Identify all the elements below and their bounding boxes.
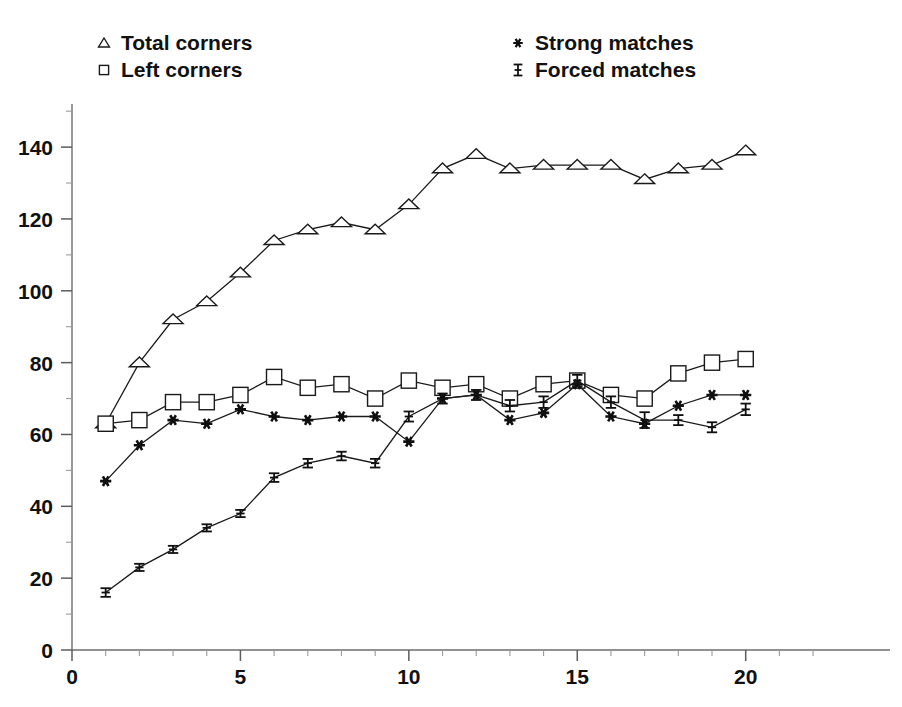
data-point — [201, 419, 212, 429]
marker-open-square — [132, 413, 147, 428]
marker-open-square — [704, 355, 719, 370]
y-tick-label: 20 — [30, 567, 53, 590]
data-series-group — [96, 145, 756, 597]
legend-marker-open-square — [99, 65, 108, 74]
marker-open-square — [300, 380, 315, 395]
data-point — [702, 159, 722, 169]
data-point — [671, 366, 686, 381]
data-point — [536, 377, 551, 392]
marker-open-triangle — [433, 163, 453, 173]
x-tick-label: 5 — [235, 665, 247, 688]
marker-solid-star-core — [542, 411, 546, 415]
data-point — [740, 390, 751, 400]
marker-open-triangle — [635, 174, 655, 184]
data-point — [331, 217, 351, 227]
legend-marker-error-bar — [514, 65, 523, 76]
data-point — [233, 387, 248, 402]
data-point — [267, 369, 282, 384]
marker-solid-star-core — [339, 415, 343, 419]
data-point — [264, 235, 284, 245]
marker-open-square — [199, 395, 214, 410]
marker-open-square — [671, 366, 686, 381]
legend-entry-strong-matches: Strong matches — [513, 31, 693, 54]
marker-solid-star-core — [609, 415, 613, 419]
data-point — [129, 357, 149, 367]
series-strong-matches — [100, 379, 751, 486]
data-point-error-bar — [235, 510, 245, 517]
marker-open-triangle — [736, 145, 756, 155]
legend-marker-open-triangle — [99, 38, 110, 47]
y-tick-label: 60 — [30, 423, 53, 446]
chart-container: 020406080100120140 05101520 Total corner… — [0, 0, 902, 707]
marker-open-square — [165, 395, 180, 410]
x-tick-label: 15 — [566, 665, 590, 688]
marker-solid-star-core — [373, 415, 377, 419]
marker-open-triangle — [264, 235, 284, 245]
marker-solid-star-core — [238, 407, 242, 411]
marker-open-square — [334, 377, 349, 392]
x-tick-label: 0 — [66, 665, 78, 688]
data-point — [302, 415, 313, 425]
marker-open-triangle — [331, 217, 351, 227]
data-point — [300, 380, 315, 395]
data-point — [235, 404, 246, 414]
data-point — [165, 395, 180, 410]
data-point — [298, 224, 318, 234]
legend-label: Total corners — [121, 31, 252, 54]
data-point-error-bar — [639, 412, 649, 428]
data-point — [706, 390, 717, 400]
y-axis-tick-labels: 020406080100120140 — [18, 136, 53, 662]
y-tick-label: 120 — [18, 208, 53, 231]
marker-open-triangle — [567, 159, 587, 169]
marker-open-triangle — [230, 267, 250, 277]
marker-solid-star-core — [407, 440, 411, 444]
marker-solid-star-core — [272, 415, 276, 419]
marker-open-square — [401, 373, 416, 388]
data-point — [334, 377, 349, 392]
series-total-corners — [96, 145, 756, 428]
legend-marker-solid-star — [513, 39, 523, 47]
data-point — [738, 351, 753, 366]
marker-open-square — [368, 391, 383, 406]
data-point — [704, 355, 719, 370]
y-tick-label: 100 — [18, 280, 53, 303]
marker-solid-star-core — [205, 422, 209, 426]
data-point-error-bar — [336, 452, 346, 461]
data-point — [567, 159, 587, 169]
marker-open-square — [233, 387, 248, 402]
marker-open-square — [738, 351, 753, 366]
data-point-error-bar — [370, 459, 380, 468]
data-point — [601, 159, 621, 169]
y-tick-label: 40 — [30, 495, 53, 518]
data-point — [433, 163, 453, 173]
data-point — [466, 149, 486, 159]
y-tick-label: 0 — [41, 639, 53, 662]
x-tick-label: 10 — [397, 665, 420, 688]
legend-entry-total-corners: Total corners — [99, 31, 253, 54]
marker-solid-star-core — [508, 418, 512, 422]
data-point-error-bar — [740, 404, 750, 415]
series-line — [106, 151, 746, 424]
legend-entry-forced-matches: Forced matches — [514, 58, 696, 81]
marker-solid-star-core — [171, 418, 175, 422]
data-point — [336, 412, 347, 422]
x-axis-tick-labels: 05101520 — [66, 665, 757, 688]
data-point — [230, 267, 250, 277]
marker-open-triangle — [129, 357, 149, 367]
data-point — [736, 145, 756, 155]
legend-label: Forced matches — [535, 58, 696, 81]
marker-solid-star-core — [744, 393, 748, 397]
data-point — [98, 416, 113, 431]
marker-open-square — [267, 369, 282, 384]
marker-solid-star-core — [516, 41, 519, 44]
data-point — [132, 413, 147, 428]
marker-solid-star-core — [710, 393, 714, 397]
data-point — [534, 159, 554, 169]
data-point — [199, 395, 214, 410]
data-point — [673, 401, 684, 411]
x-tick-label: 20 — [734, 665, 757, 688]
marker-solid-star-core — [306, 418, 310, 422]
marker-open-triangle — [399, 199, 419, 209]
y-tick-label: 80 — [30, 352, 53, 375]
line-chart-plot: 020406080100120140 05101520 Total corner… — [0, 0, 902, 707]
